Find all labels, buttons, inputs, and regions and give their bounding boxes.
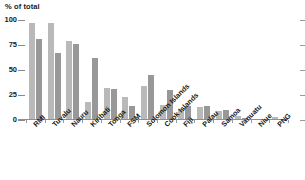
y-axis-tick xyxy=(18,70,25,71)
y-axis-tick-label: 25 xyxy=(9,91,17,99)
bar-group xyxy=(213,20,232,120)
bar xyxy=(48,23,54,120)
y-axis-tick-right xyxy=(300,70,305,71)
y-axis-tick xyxy=(18,120,25,121)
bar-group xyxy=(82,20,101,120)
bar-group xyxy=(194,20,213,120)
bar xyxy=(29,23,35,120)
bar xyxy=(141,86,147,120)
bar-group xyxy=(138,20,157,120)
y-axis-tick-right xyxy=(300,95,305,96)
bar-group xyxy=(26,20,45,120)
bar-group xyxy=(232,20,251,120)
y-axis-tick-label: 0 xyxy=(13,116,17,124)
bar-group xyxy=(269,20,288,120)
bar-chart: % of total 0255075100 RMITuvaluNauruKiri… xyxy=(0,0,305,180)
y-axis-tick xyxy=(18,20,25,21)
y-axis-tick-label: 50 xyxy=(9,66,17,74)
y-axis-title: % of total xyxy=(5,2,40,11)
bar xyxy=(36,39,42,120)
y-axis-tick xyxy=(18,95,25,96)
bar xyxy=(55,53,61,120)
y-axis-tick-right xyxy=(300,120,305,121)
y-axis-tick-label: 75 xyxy=(9,41,17,49)
bar xyxy=(92,58,98,120)
plot-area: 0255075100 xyxy=(26,20,288,120)
y-axis-tick xyxy=(18,45,25,46)
y-axis-tick-label: 100 xyxy=(4,16,17,24)
bar xyxy=(73,44,79,120)
bar-group xyxy=(45,20,64,120)
y-axis-tick-right xyxy=(300,20,305,21)
bar-group xyxy=(63,20,82,120)
bar-group xyxy=(120,20,139,120)
x-axis-labels: RMITuvaluNauruKiribatiTongaFSMSolomon Is… xyxy=(26,123,305,180)
bar-series-container xyxy=(26,20,288,120)
y-axis-tick-right xyxy=(300,45,305,46)
